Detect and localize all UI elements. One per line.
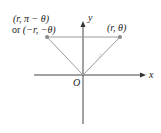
x-axis-arrow-icon <box>140 73 146 78</box>
origin-label: O <box>73 77 80 88</box>
right-point-label: (r, θ) <box>107 22 126 33</box>
ray-to-left-point <box>47 37 83 75</box>
left-point-label-line2: or (−r, −θ) <box>12 24 56 35</box>
left-point-label-line1: (r, π − θ) <box>13 13 49 24</box>
left-point-dot <box>45 35 49 39</box>
ray-to-right-point <box>83 37 120 75</box>
left-point-alt-coords: (−r, −θ) <box>23 24 56 35</box>
right-point-dot <box>118 35 122 39</box>
x-axis-label: x <box>149 69 153 80</box>
or-word: or <box>12 24 23 35</box>
y-axis-label: y <box>88 12 92 23</box>
y-axis-arrow-icon <box>81 21 86 27</box>
